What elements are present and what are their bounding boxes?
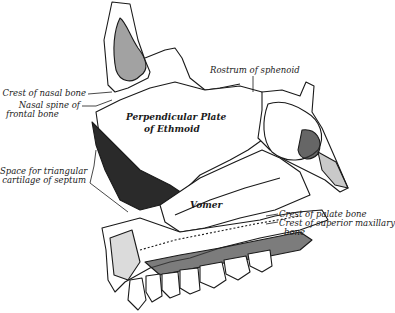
label-vomer: Vomer: [190, 200, 222, 211]
label-space-line2: cartilage of septum: [0, 176, 86, 185]
label-nasal-spine-line2: frontal bone: [6, 110, 59, 119]
label-crest-of-sup-maxillary-line2: bone: [284, 228, 305, 237]
label-perpendicular-plate-line1: Perpendicular Plate: [126, 112, 226, 123]
label-rostrum-of-sphenoid: Rostrum of sphenoid: [210, 66, 300, 75]
label-perpendicular-plate-line2: of Ethmoid: [144, 124, 200, 135]
label-crest-of-nasal-bone: Crest of nasal bone: [0, 89, 86, 98]
